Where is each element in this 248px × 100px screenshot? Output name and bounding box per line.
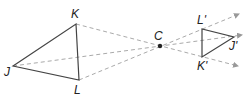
label-l-prime: L': [197, 13, 207, 27]
ray-j-to-j-prime: [13, 35, 242, 66]
dashed-rays: [13, 14, 242, 80]
label-l: L: [74, 83, 81, 97]
dilation-diagram: J K L C J' K' L': [0, 0, 248, 100]
label-k-prime: K': [197, 59, 208, 73]
label-j: J: [3, 65, 11, 79]
label-k: K: [71, 7, 80, 21]
triangle-jkl: [13, 24, 79, 80]
label-j-prime: J': [228, 39, 238, 53]
label-c: C: [154, 29, 163, 43]
center-point: [158, 44, 162, 48]
